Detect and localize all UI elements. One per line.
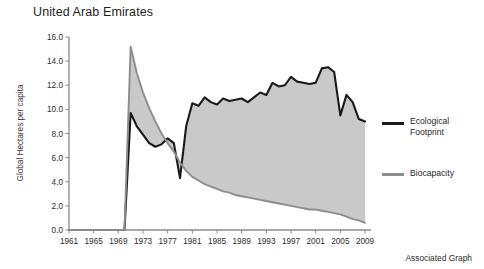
y-tick-label: 6.0 bbox=[52, 154, 64, 163]
x-tick-label: 1973 bbox=[134, 237, 153, 246]
legend-swatch-biocapacity bbox=[382, 173, 404, 176]
legend-label-biocapacity: Biocapacity bbox=[410, 168, 454, 179]
footer-caption: Associated Graph bbox=[405, 253, 472, 263]
x-tick-label: 1981 bbox=[183, 237, 202, 246]
x-tick-label: 1989 bbox=[233, 237, 252, 246]
y-tick-label: 12.0 bbox=[47, 81, 63, 90]
x-tick-label: 1961 bbox=[60, 237, 79, 246]
y-tick-label: 8.0 bbox=[52, 130, 64, 139]
y-tick-label: 10.0 bbox=[47, 105, 63, 114]
area-fill-group bbox=[69, 47, 365, 230]
x-tick-label: 1965 bbox=[85, 237, 104, 246]
legend-label-ecological-footprint: Ecological Footprint bbox=[410, 116, 449, 137]
x-tick-label: 1969 bbox=[109, 237, 128, 246]
y-tick-label: 4.0 bbox=[52, 178, 64, 187]
x-tick-label: 1985 bbox=[208, 237, 227, 246]
y-tick-label: 2.0 bbox=[52, 202, 64, 211]
area-between-series bbox=[69, 47, 365, 230]
x-tick-label: 1993 bbox=[257, 237, 276, 246]
chart-container: United Arab Emirates 0.02.04.06.08.010.0… bbox=[0, 0, 484, 269]
x-tick-label: 1977 bbox=[159, 237, 178, 246]
x-tick-label: 1997 bbox=[282, 237, 301, 246]
y-tick-label: 0.0 bbox=[52, 226, 64, 235]
y-tick-label: 14.0 bbox=[47, 57, 63, 66]
legend-swatch-ecological-footprint bbox=[382, 122, 404, 125]
y-axis-title: Global Hectares per capita bbox=[16, 84, 25, 181]
x-tick-label: 2001 bbox=[307, 237, 326, 246]
y-tick-label: 16.0 bbox=[47, 33, 63, 42]
x-tick-label: 2005 bbox=[331, 237, 350, 246]
x-tick-label: 2009 bbox=[356, 237, 375, 246]
